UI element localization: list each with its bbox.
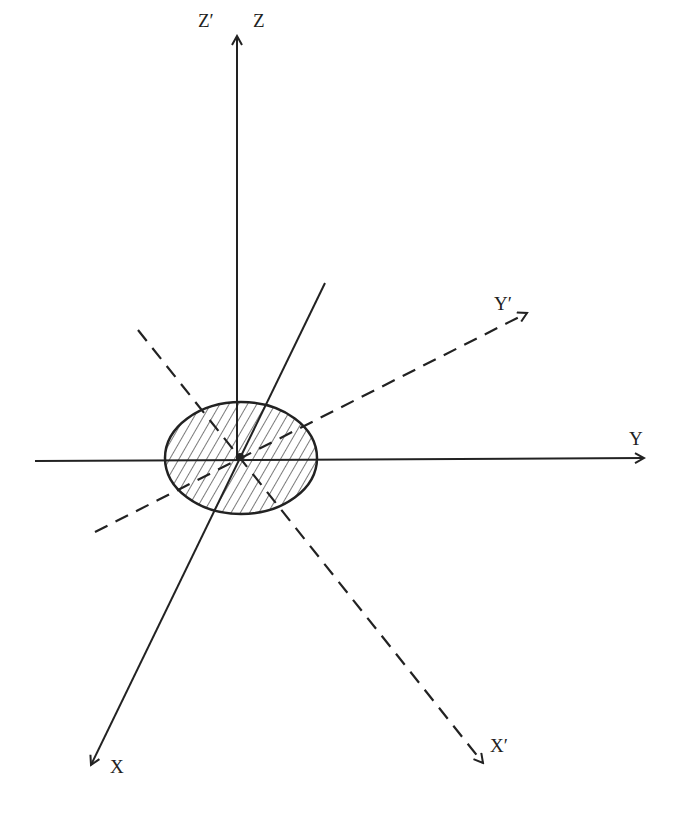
x-prime-axis bbox=[138, 330, 483, 763]
coordinate-diagram: Z′ Z Y Y′ X X′ bbox=[0, 0, 680, 815]
label-y: Y bbox=[629, 428, 643, 449]
label-z-prime: Z′ bbox=[198, 10, 214, 31]
y-prime-axis bbox=[95, 313, 527, 532]
label-z: Z bbox=[253, 10, 265, 31]
origin-point bbox=[236, 453, 244, 461]
y-axis bbox=[35, 458, 644, 461]
x-axis bbox=[91, 283, 325, 765]
label-y-prime: Y′ bbox=[494, 293, 512, 314]
label-x: X bbox=[110, 756, 124, 777]
label-x-prime: X′ bbox=[490, 735, 508, 756]
